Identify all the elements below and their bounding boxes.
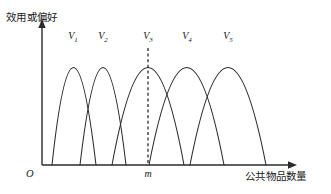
preference-curve-group <box>52 68 266 166</box>
figure-canvas <box>0 0 331 194</box>
single-peaked-preferences-figure: 效用或偏好 公共物品数量 O m V1 V2 V3 V4 V5 <box>0 0 331 194</box>
median-tick-label: m <box>144 168 151 179</box>
curve-label-v4: V4 <box>182 30 192 44</box>
preference-curve-v2 <box>80 68 126 166</box>
curve-label-v5-subscript: 5 <box>229 36 233 44</box>
curve-label-v3-subscript: 3 <box>149 36 153 44</box>
preference-curve-v4 <box>149 68 224 166</box>
curve-label-v1-subscript: 1 <box>74 36 78 44</box>
x-axis-label: 公共物品数量 <box>245 168 307 183</box>
curve-label-v5: V5 <box>223 30 233 44</box>
curve-label-v2-subscript: 2 <box>104 36 108 44</box>
curve-label-v3: V3 <box>143 30 153 44</box>
curve-label-v2: V2 <box>98 30 108 44</box>
curve-label-v1: V1 <box>68 30 78 44</box>
preference-curve-v1 <box>52 68 96 166</box>
curve-label-v4-subscript: 4 <box>188 36 192 44</box>
y-axis-label: 效用或偏好 <box>6 9 58 24</box>
origin-label: O <box>26 168 34 179</box>
